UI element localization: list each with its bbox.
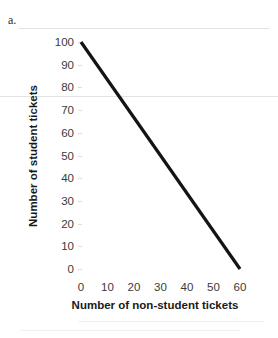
y-tick-label: 90 bbox=[44, 59, 74, 71]
y-tick-label: 80 bbox=[44, 81, 74, 93]
page-artifact-line-bottom-1 bbox=[78, 321, 264, 322]
plot-area bbox=[81, 42, 240, 269]
y-tick-label: 10 bbox=[44, 240, 74, 252]
y-tick-label: 30 bbox=[44, 195, 74, 207]
y-tick-label: 40 bbox=[44, 172, 74, 184]
page-artifact-line-bottom-2 bbox=[20, 330, 240, 331]
x-tick-label: 30 bbox=[148, 280, 174, 294]
y-tick-label: 20 bbox=[44, 218, 74, 230]
y-axis-tick-labels: 0102030405060708090100 bbox=[44, 42, 74, 269]
y-tick-mark bbox=[78, 269, 82, 270]
x-tick-label: 0 bbox=[68, 280, 94, 294]
x-axis-tick-labels: 0102030405060 bbox=[81, 280, 240, 294]
y-tick-label: 0 bbox=[44, 263, 74, 275]
x-axis-title: Number of non-student tickets bbox=[40, 299, 270, 311]
x-tick-label: 20 bbox=[121, 280, 147, 294]
x-tick-label: 60 bbox=[227, 280, 253, 294]
x-tick-label: 40 bbox=[174, 280, 200, 294]
data-line bbox=[81, 42, 240, 269]
x-tick-label: 10 bbox=[95, 280, 121, 294]
y-tick-label: 50 bbox=[44, 150, 74, 162]
x-tick-label: 50 bbox=[201, 280, 227, 294]
y-tick-label: 70 bbox=[44, 104, 74, 116]
y-axis-title: Number of student tickets bbox=[27, 81, 39, 231]
line-series-svg bbox=[81, 42, 240, 269]
figure-label: a. bbox=[8, 13, 16, 27]
y-tick-label: 60 bbox=[44, 127, 74, 139]
chart-figure: a. Number of student tickets 01020304050… bbox=[0, 0, 278, 338]
y-tick-label: 100 bbox=[44, 36, 74, 48]
page-artifact-line-top bbox=[18, 28, 270, 29]
